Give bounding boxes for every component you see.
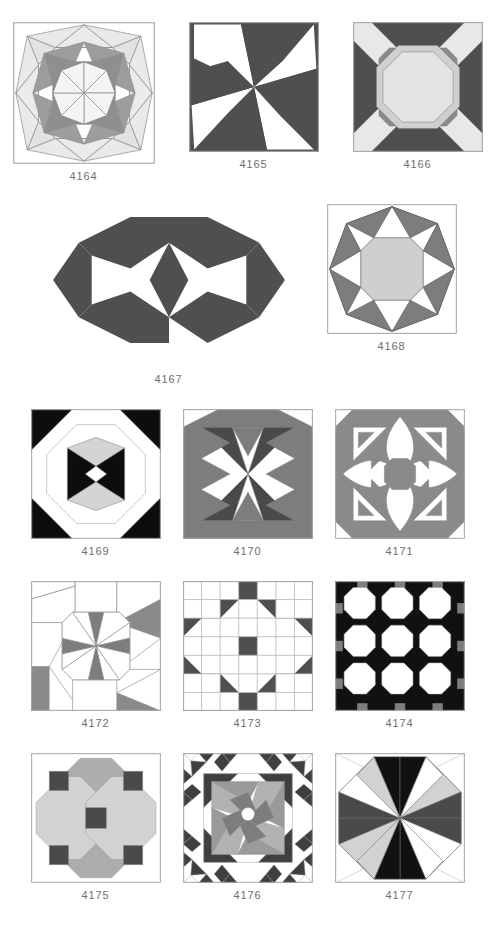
pattern-four-large-octagons (31, 753, 161, 883)
block-label-4165: 4165 (239, 159, 267, 170)
block-cell-4172[interactable]: 4172 (31, 581, 161, 729)
pattern-radial-star-medallion (13, 22, 155, 164)
block-row-2: 4167 (0, 204, 495, 385)
block-cell-4168[interactable]: 4168 (327, 204, 457, 352)
quilt-block-4172[interactable] (31, 581, 161, 711)
block-label-4168: 4168 (377, 341, 405, 352)
block-cell-4176[interactable]: 4176 (183, 753, 313, 901)
pattern-eight-blade-pinwheel (189, 22, 319, 152)
pattern-octagon-diamond-center (31, 409, 161, 539)
quilt-block-4168[interactable] (327, 204, 457, 334)
block-label-4170: 4170 (233, 546, 261, 557)
quilt-block-4174[interactable] (335, 581, 465, 711)
quilt-block-4173[interactable] (183, 581, 313, 711)
block-cell-4173[interactable]: 4173 (183, 581, 313, 729)
block-label-4169: 4169 (81, 546, 109, 557)
quilt-block-4176[interactable] (183, 753, 313, 883)
block-label-4174: 4174 (385, 718, 413, 729)
pattern-double-hexagon-star (39, 204, 299, 356)
quilt-block-4165[interactable] (189, 22, 319, 152)
quilt-block-4177[interactable] (335, 753, 465, 883)
block-row-4: 4172 (0, 581, 495, 729)
block-label-4177: 4177 (385, 890, 413, 901)
pattern-octagon-cross-rays (353, 22, 483, 152)
block-cell-4165[interactable]: 4165 (189, 22, 319, 170)
quilt-block-4164[interactable] (13, 22, 155, 164)
block-label-4176: 4176 (233, 890, 261, 901)
block-row-3: 4169 (0, 409, 495, 557)
quilt-block-4169[interactable] (31, 409, 161, 539)
quilt-pattern-page: 4164 (0, 22, 495, 945)
block-cell-4174[interactable]: 4174 (335, 581, 465, 729)
pattern-octagon-x-triangles (183, 409, 313, 539)
block-label-4166: 4166 (403, 159, 431, 170)
block-cell-4164[interactable]: 4164 (13, 22, 155, 182)
block-label-4167: 4167 (154, 374, 182, 385)
pattern-octagon-point-star (327, 204, 457, 334)
pattern-octagon-radiating-wedges (335, 753, 465, 883)
block-label-4175: 4175 (81, 890, 109, 901)
block-label-4173: 4173 (233, 718, 261, 729)
block-cell-4167[interactable]: 4167 (39, 204, 299, 385)
quilt-block-4170[interactable] (183, 409, 313, 539)
block-label-4164: 4164 (69, 171, 97, 182)
block-row-1: 4164 (0, 22, 495, 182)
pattern-octagon-pinwheel-slivers (31, 581, 161, 711)
quilt-block-4167[interactable] (39, 204, 299, 356)
block-label-4172: 4172 (81, 718, 109, 729)
quilt-block-4171[interactable] (335, 409, 465, 539)
pattern-curved-cross-compass (335, 409, 465, 539)
quilt-block-4166[interactable] (353, 22, 483, 152)
block-cell-4170[interactable]: 4170 (183, 409, 313, 557)
block-cell-4166[interactable]: 4166 (353, 22, 483, 170)
block-cell-4169[interactable]: 4169 (31, 409, 161, 557)
quilt-block-4175[interactable] (31, 753, 161, 883)
block-cell-4171[interactable]: 4171 (335, 409, 465, 557)
pattern-spiral-pinwheel-sawtooth (183, 753, 313, 883)
block-cell-4175[interactable]: 4175 (31, 753, 161, 901)
block-label-4171: 4171 (385, 546, 413, 557)
pattern-nine-octagon-grid (335, 581, 465, 711)
block-cell-4177[interactable]: 4177 (335, 753, 465, 901)
block-row-5: 4175 (0, 753, 495, 901)
pattern-four-octagon-grid (183, 581, 313, 711)
